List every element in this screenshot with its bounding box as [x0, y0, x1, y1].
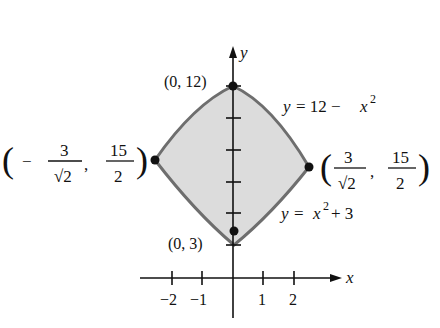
svg-text:2: 2 [396, 174, 405, 193]
svg-text:−: − [22, 152, 32, 171]
x-tick-labels: −2 −1 1 2 [160, 291, 297, 308]
svg-text:2: 2 [289, 291, 297, 308]
point-top [229, 82, 238, 91]
svg-text:(: ( [2, 140, 14, 180]
label-upper-curve: y = 12 − x 2 [281, 92, 376, 116]
svg-text:): ) [418, 147, 430, 187]
svg-text:,: , [84, 155, 88, 174]
svg-text:√2: √2 [54, 167, 72, 186]
svg-text:): ) [136, 140, 148, 180]
label-lower-curve: y = x 2 + 3 [279, 199, 353, 223]
svg-text:,: , [370, 162, 374, 181]
svg-text:y: y [281, 97, 291, 116]
svg-text:(: ( [320, 147, 332, 187]
diagram-canvas: y x −2 −1 1 2 (0, 12) (0, 3) ( − 3 √2 , [0, 0, 440, 328]
svg-text:1: 1 [258, 291, 266, 308]
svg-text:15: 15 [110, 141, 127, 160]
svg-text:3: 3 [60, 141, 69, 160]
label-bottom-point: (0, 3) [168, 235, 203, 253]
svg-text:√2: √2 [338, 174, 356, 193]
label-left-point: ( − 3 √2 , 15 2 ) [2, 140, 148, 186]
point-bottom [230, 227, 239, 236]
y-axis-label: y [238, 43, 248, 62]
svg-text:15: 15 [392, 148, 409, 167]
svg-text:2: 2 [114, 167, 123, 186]
svg-text:x: x [359, 97, 368, 116]
y-axis-arrow-icon [229, 46, 237, 58]
label-right-point: ( 3 √2 , 15 2 ) [320, 147, 430, 193]
svg-text:2: 2 [370, 92, 376, 106]
svg-text:y: y [279, 204, 289, 223]
x-axis-arrow-icon [330, 274, 342, 282]
svg-text:=: = [294, 204, 304, 223]
x-axis-label: x [345, 268, 354, 287]
region-diagram: y x −2 −1 1 2 (0, 12) (0, 3) ( − 3 √2 , [0, 0, 440, 328]
svg-text:−2: −2 [160, 291, 177, 308]
svg-text:= 12 −: = 12 − [296, 97, 341, 116]
label-top-point: (0, 12) [164, 73, 207, 91]
point-right [305, 163, 314, 172]
point-left [151, 156, 160, 165]
svg-text:3: 3 [344, 148, 353, 167]
svg-text:+ 3: + 3 [331, 204, 353, 223]
svg-text:−1: −1 [190, 291, 207, 308]
svg-text:x: x [312, 204, 321, 223]
svg-text:2: 2 [323, 199, 329, 213]
